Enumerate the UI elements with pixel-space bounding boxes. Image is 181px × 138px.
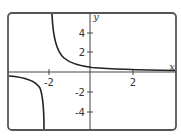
x-tick-label: -2 <box>44 77 54 88</box>
y-tick-label: 2 <box>79 47 85 58</box>
y-axis-label: y <box>92 11 99 22</box>
y-tick-label: -2 <box>75 87 85 98</box>
function-graph: -2 2 4 2 -2 -4 x y <box>0 0 181 138</box>
x-tick-label: 2 <box>130 77 136 88</box>
y-tick-label: -4 <box>75 107 85 118</box>
y-tick-label: 4 <box>79 28 85 39</box>
